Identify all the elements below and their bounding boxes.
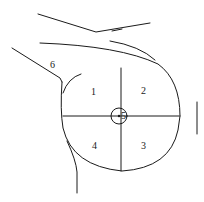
quadrant-label-1: 1: [91, 86, 96, 97]
shoulder-curve: [110, 41, 155, 60]
nipple-dot: [118, 115, 120, 117]
center-label-5: 5: [121, 110, 126, 121]
axilla-label-6: 6: [50, 59, 55, 70]
body-side-line: [67, 141, 77, 193]
axilla-fold: [63, 74, 81, 93]
quadrant-label-2: 2: [141, 85, 146, 96]
quadrant-label-3: 3: [141, 140, 146, 151]
quadrant-label-4: 4: [92, 140, 97, 151]
breast-diagram: 1 2 3 4 5 6: [0, 0, 204, 202]
clavicle-line: [38, 14, 150, 32]
